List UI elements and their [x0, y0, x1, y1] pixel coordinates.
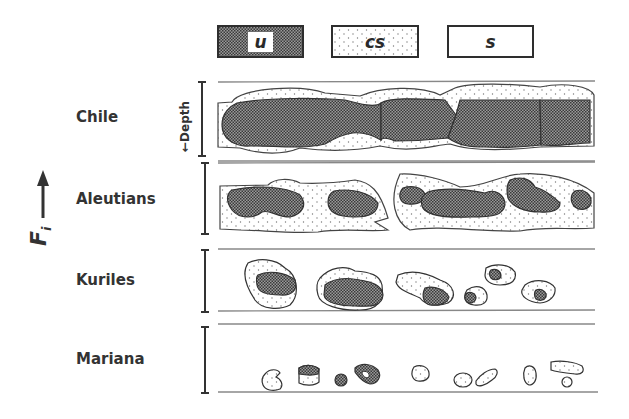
- fi-axis-label: Fi: [26, 226, 54, 246]
- row-label-chile: Chile: [76, 108, 118, 126]
- fi-label-main: F: [26, 231, 51, 246]
- row-chile-panel: [198, 81, 595, 161]
- legend-cs-box: cs: [331, 25, 419, 58]
- fi-label-subscript: i: [39, 226, 54, 230]
- depth-axis-label: ←Depth: [178, 101, 192, 152]
- legend-cs-label: cs: [359, 32, 391, 52]
- legend-u-label: u: [248, 32, 272, 52]
- row-label-mariana: Mariana: [76, 350, 145, 368]
- fi-arrow-icon: [37, 170, 49, 218]
- legend-s-label: s: [479, 32, 501, 52]
- row-mariana-panel: [201, 327, 598, 393]
- row-aleutians-panel: [201, 162, 595, 249]
- row-label-kuriles: Kuriles: [76, 271, 135, 289]
- row-label-aleutians: Aleutians: [76, 190, 156, 208]
- row-kuriles-panel: [201, 250, 595, 324]
- legend-u-box: u: [217, 25, 304, 58]
- legend-s-box: s: [447, 25, 534, 58]
